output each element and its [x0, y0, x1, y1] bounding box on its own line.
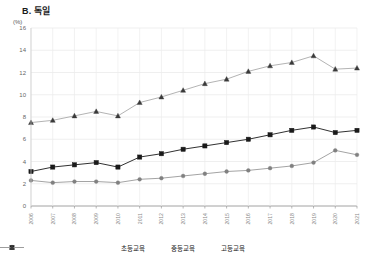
data-point-marker	[290, 164, 294, 168]
data-point-marker	[181, 174, 185, 178]
x-axis-tick-label: 2013	[180, 213, 186, 225]
data-point-marker	[51, 165, 55, 169]
data-point-marker	[138, 155, 142, 159]
y-axis-tick-label: 4	[23, 159, 27, 165]
data-point-marker	[181, 147, 185, 151]
x-axis-tick-label: 2010	[115, 213, 121, 225]
data-point-marker	[94, 109, 99, 114]
data-point-marker	[333, 130, 337, 134]
legend-item[interactable]: 초등교육	[121, 243, 145, 253]
data-point-marker	[116, 181, 120, 185]
y-axis-tick-label: 10	[19, 92, 26, 98]
x-axis-tick-label: 2007	[50, 213, 56, 225]
y-axis-tick-label: 12	[19, 70, 26, 76]
legend-label: 고등교육	[221, 243, 245, 253]
data-point-marker	[246, 137, 250, 141]
data-point-marker	[94, 180, 98, 184]
x-axis-tick-label: 2015	[224, 213, 230, 225]
legend-label: 초등교육	[121, 243, 145, 253]
legend-item[interactable]: 고등교육	[221, 243, 245, 253]
data-point-marker	[73, 180, 77, 184]
data-point-marker	[116, 165, 120, 169]
data-point-marker	[268, 166, 272, 170]
data-point-marker	[72, 163, 76, 167]
x-axis-tick-label: 2011	[137, 213, 143, 224]
y-axis-tick-label: 14	[19, 47, 26, 53]
data-point-marker	[225, 140, 229, 144]
y-axis-tick-label: 8	[23, 114, 27, 120]
data-point-marker	[225, 170, 229, 174]
data-point-marker	[311, 125, 315, 129]
data-point-marker	[138, 177, 142, 181]
data-point-marker	[355, 128, 359, 132]
chart-legend: 초등교육중등교육고등교육	[0, 243, 365, 253]
y-axis-tick-label: 0	[23, 203, 27, 209]
series-line-circle	[31, 150, 357, 182]
data-point-marker	[246, 169, 250, 173]
data-point-marker	[203, 144, 207, 148]
data-point-marker	[290, 128, 294, 132]
data-point-marker	[355, 153, 359, 157]
chart-container: B. 독일 (%) 024681012141620062007200820092…	[0, 0, 365, 264]
x-axis-tick-label: 2012	[158, 213, 164, 225]
data-point-marker	[159, 152, 163, 156]
y-axis-tick-label: 6	[23, 136, 27, 142]
data-point-marker	[312, 161, 316, 165]
y-axis-tick-label: 2	[23, 181, 27, 187]
x-axis-tick-label: 2006	[28, 213, 34, 225]
x-axis-tick-label: 2017	[267, 213, 273, 225]
data-point-marker	[203, 172, 207, 176]
y-axis-tick-label: 16	[19, 25, 26, 31]
data-point-marker	[94, 161, 98, 165]
x-axis-tick-label: 2009	[93, 213, 99, 225]
data-point-marker	[160, 176, 164, 180]
data-point-marker	[333, 148, 337, 152]
x-axis-tick-label: 2018	[289, 213, 295, 225]
x-axis-tick-label: 2008	[71, 213, 77, 225]
data-point-marker	[311, 53, 316, 58]
chart-plot: 0246810121416200620072008200920102011201…	[0, 0, 365, 264]
data-point-marker	[51, 181, 55, 185]
x-axis-tick-label: 2016	[245, 213, 251, 225]
legend-symbol-triangle-icon	[0, 243, 24, 252]
series-line-triangle	[31, 56, 357, 123]
legend-label: 중등교육	[171, 243, 195, 253]
x-axis-tick-label: 2019	[311, 213, 317, 225]
x-axis-tick-label: 2020	[332, 213, 338, 225]
data-point-marker	[268, 133, 272, 137]
legend-item[interactable]: 중등교육	[171, 243, 195, 253]
x-axis-tick-label: 2014	[202, 213, 208, 225]
x-axis-tick-label: 2021	[354, 213, 360, 225]
series-line-square	[31, 127, 357, 172]
